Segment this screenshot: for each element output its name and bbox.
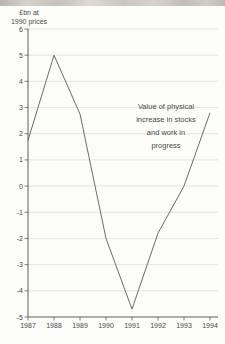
- x-tick-label: 1988: [46, 322, 62, 329]
- y-tick-label: 4: [19, 78, 23, 85]
- x-tick-label: 1987: [20, 322, 36, 329]
- y-tick-label: -2: [17, 235, 23, 242]
- x-tick-label: 1993: [176, 322, 192, 329]
- y-tick-label: -1: [17, 209, 23, 216]
- y-tick-label: 2: [19, 130, 23, 137]
- y-tick-label: -4: [17, 287, 23, 294]
- y-tick-label: 6: [19, 26, 23, 33]
- x-tick-label: 1990: [98, 322, 114, 329]
- stockbuilding-figure: £bn at 1990 prices 6543210-1-2-3-4-51987…: [0, 0, 225, 344]
- y-tick-label: 1: [19, 156, 23, 163]
- x-tick-label: 1989: [72, 322, 88, 329]
- x-tick-label: 1991: [124, 322, 140, 329]
- x-tick-label: 1992: [150, 322, 166, 329]
- y-tick-label: -5: [17, 314, 23, 321]
- y-tick-label: 3: [19, 104, 23, 111]
- y-tick-label: -3: [17, 261, 23, 268]
- y-tick-label: 0: [19, 183, 23, 190]
- x-tick-label: 1994: [202, 322, 218, 329]
- series-annotation: Value of physical increase in stocks and…: [116, 100, 216, 152]
- stocks-line-chart: 6543210-1-2-3-4-519871988198919901991199…: [0, 0, 225, 344]
- data-line: [28, 55, 210, 309]
- y-tick-label: 5: [19, 52, 23, 59]
